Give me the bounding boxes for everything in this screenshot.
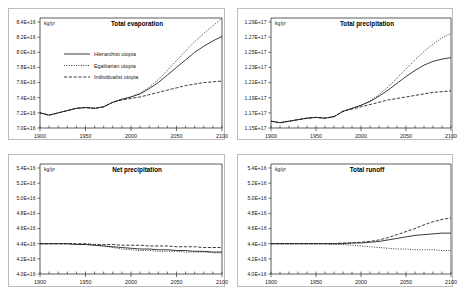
chart-grid: 7.0E+167.2E+167.4E+167.6E+167.8E+168.0E+…: [0, 0, 461, 303]
y-tick-label: 4.8E+16: [247, 210, 266, 216]
y-tick-label: 4.0E+16: [16, 271, 35, 277]
y-axis-unit-label: kg/yr: [275, 166, 286, 172]
y-tick-label: 4.6E+16: [16, 225, 35, 231]
x-tick-label: 1900: [34, 133, 46, 139]
x-tick-label: 1950: [310, 133, 322, 139]
x-tick-label: 2100: [216, 279, 228, 285]
x-tick-label: 1950: [310, 279, 322, 285]
y-tick-label: 7.6E+16: [16, 79, 35, 85]
figure-sheet: 7.0E+167.2E+167.4E+167.6E+167.8E+168.0E+…: [0, 0, 461, 303]
y-tick-label: 1.21E+17: [245, 79, 267, 85]
series-line: [271, 233, 451, 244]
x-tick-label: 2100: [216, 133, 228, 139]
y-tick-label: 5.4E+16: [16, 165, 35, 171]
plot-total-evaporation: 7.0E+167.2E+167.4E+167.6E+167.8E+168.0E+…: [0, 0, 231, 152]
x-tick-label: 1950: [80, 133, 92, 139]
chart-title: Total evaporation: [111, 20, 163, 28]
plot-net-precipitation: 4.0E+164.2E+164.4E+164.6E+164.8E+165.0E+…: [0, 152, 231, 303]
y-tick-label: 4.2E+16: [247, 256, 266, 262]
y-tick-label: 7.8E+16: [16, 64, 35, 70]
y-tick-label: 4.2E+16: [16, 256, 35, 262]
y-tick-label: 4.8E+16: [16, 210, 35, 216]
y-tick-label: 4.6E+16: [247, 225, 266, 231]
chart-title: Net precipitation: [112, 166, 162, 174]
x-tick-label: 2000: [125, 133, 137, 139]
y-tick-label: 8.4E+16: [16, 19, 35, 25]
x-tick-label: 2000: [125, 279, 137, 285]
y-tick-label: 1.17E+17: [245, 110, 267, 116]
y-tick-label: 8.2E+16: [16, 34, 35, 40]
y-tick-label: 1.19E+17: [245, 95, 267, 101]
x-tick-label: 2100: [445, 133, 457, 139]
x-tick-label: 2100: [445, 279, 457, 285]
x-tick-label: 1900: [265, 279, 277, 285]
x-tick-label: 1900: [34, 279, 46, 285]
series-line: [40, 244, 222, 248]
x-tick-label: 1900: [265, 133, 277, 139]
x-tick-label: 2000: [355, 133, 367, 139]
y-tick-label: 5.2E+16: [16, 180, 35, 186]
series-line: [271, 58, 451, 123]
legend-label: Individualist utopia: [94, 74, 138, 80]
series-line: [40, 244, 222, 252]
y-tick-label: 7.0E+16: [16, 125, 35, 131]
x-tick-label: 2050: [400, 279, 412, 285]
x-tick-label: 2050: [171, 133, 183, 139]
series-line: [271, 244, 451, 251]
y-tick-label: 8.0E+16: [16, 49, 35, 55]
y-tick-label: 5.2E+16: [247, 180, 266, 186]
y-tick-label: 1.29E+17: [245, 19, 267, 25]
series-line: [40, 81, 222, 115]
chart-title: Total precipitation: [340, 20, 394, 28]
y-tick-label: 1.15E+17: [245, 125, 267, 131]
y-tick-label: 5.0E+16: [247, 195, 266, 201]
y-tick-label: 4.4E+16: [247, 241, 266, 247]
y-axis-unit-label: kg/yr: [44, 20, 55, 26]
chart-panel-total-evaporation: 7.0E+167.2E+167.4E+167.6E+167.8E+168.0E+…: [0, 0, 231, 152]
series-line: [271, 218, 451, 244]
y-axis-unit-label: kg/yr: [275, 20, 286, 26]
y-tick-label: 5.0E+16: [16, 195, 35, 201]
y-tick-label: 4.0E+16: [247, 271, 266, 277]
chart-panel-total-runoff: 4.0E+164.2E+164.4E+164.6E+164.8E+165.0E+…: [231, 152, 461, 303]
y-tick-label: 1.27E+17: [245, 34, 267, 40]
y-tick-label: 7.2E+16: [16, 110, 35, 116]
series-line: [271, 33, 451, 122]
x-tick-label: 1950: [80, 279, 92, 285]
y-tick-label: 1.25E+17: [245, 49, 267, 55]
chart-title: Total runoff: [350, 166, 385, 173]
plot-total-precipitation: 1.15E+171.17E+171.19E+171.21E+171.23E+17…: [231, 0, 461, 152]
series-line: [271, 91, 451, 123]
chart-panel-total-precipitation: 1.15E+171.17E+171.19E+171.21E+171.23E+17…: [231, 0, 461, 152]
legend-label: Egalitarian utopia: [94, 63, 136, 69]
y-tick-label: 4.4E+16: [16, 241, 35, 247]
y-axis-unit-label: kg/yr: [44, 166, 55, 172]
x-tick-label: 2050: [171, 279, 183, 285]
legend-label: Hierarchist utopia: [94, 51, 136, 57]
plot-total-runoff: 4.0E+164.2E+164.4E+164.6E+164.8E+165.0E+…: [231, 152, 461, 303]
x-tick-label: 2000: [355, 279, 367, 285]
y-tick-label: 1.23E+17: [245, 64, 267, 70]
chart-panel-net-precipitation: 4.0E+164.2E+164.4E+164.6E+164.8E+165.0E+…: [0, 152, 231, 303]
x-tick-label: 2050: [400, 133, 412, 139]
y-tick-label: 7.4E+16: [16, 95, 35, 101]
y-tick-label: 5.4E+16: [247, 165, 266, 171]
